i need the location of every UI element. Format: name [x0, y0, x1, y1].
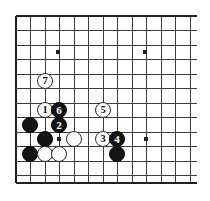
- stone-move-number: 3: [100, 133, 105, 144]
- go-board-diagram: 7165234: [0, 0, 210, 201]
- stone-move-number: 5: [100, 104, 105, 115]
- stone-white-7[interactable]: 7: [37, 73, 53, 89]
- stone-black-plain-c[interactable]: [22, 146, 38, 162]
- stone-move-number: 1: [42, 104, 47, 115]
- stone-black-plain-b[interactable]: [37, 131, 53, 147]
- stone-move-number: 2: [56, 119, 62, 130]
- stone-move-number: 4: [114, 133, 120, 144]
- board-grid: [0, 0, 210, 201]
- stone-white-plain-c[interactable]: [51, 146, 67, 162]
- star-point: [144, 137, 148, 141]
- stone-black-4[interactable]: 4: [109, 131, 125, 147]
- stone-black-plain-a[interactable]: [22, 117, 38, 133]
- stone-white-5[interactable]: 5: [95, 102, 111, 118]
- star-point: [57, 137, 61, 141]
- stone-move-number: 7: [42, 75, 47, 86]
- stone-black-2[interactable]: 2: [51, 117, 67, 133]
- star-points: [56, 50, 148, 141]
- stone-move-number: 6: [56, 104, 62, 115]
- stone-black-6[interactable]: 6: [51, 102, 67, 118]
- star-point: [56, 50, 60, 54]
- stone-black-plain-d[interactable]: [109, 146, 125, 162]
- stone-white-plain-a[interactable]: [66, 131, 82, 147]
- star-point: [143, 50, 147, 54]
